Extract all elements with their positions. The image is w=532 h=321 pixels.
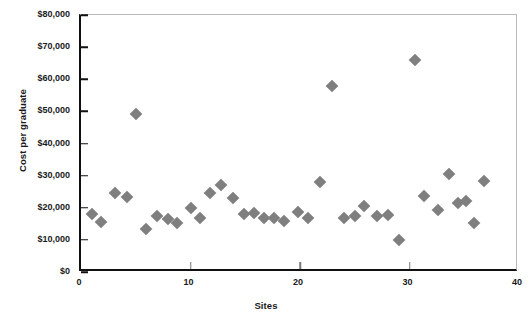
y-axis-tick-mark [81,111,88,113]
data-point-marker [184,201,197,214]
scatter-chart: Cost per graduate $0$10,000$20,000$30,00… [0,0,532,321]
y-axis-tick-label: $10,000 [8,234,70,244]
y-axis-tick-label: $20,000 [8,202,70,212]
x-axis-tick-mark [190,262,192,269]
data-point-marker [313,176,326,189]
y-axis-tick-mark [81,175,88,177]
y-axis-tick-labels: $0$10,000$20,000$30,000$40,000$50,000$60… [8,0,70,321]
plot-area [79,14,517,271]
data-point-marker [381,208,394,221]
data-point-marker [478,175,491,188]
data-point-marker [325,80,338,93]
data-point-marker [417,190,430,203]
data-point-marker [301,211,314,224]
x-axis-tick-label: 20 [293,277,303,287]
y-axis-tick-mark [81,79,88,81]
data-point-marker [94,215,107,228]
y-axis-tick-mark [81,14,88,16]
data-point-marker [139,222,152,235]
data-point-marker [86,207,99,220]
x-axis-title: Sites [0,300,532,311]
x-axis-tick-label: 40 [512,277,522,287]
data-point-marker [468,217,481,230]
data-point-marker [150,209,163,222]
data-point-marker [357,199,370,212]
x-axis-tick-mark [409,262,411,269]
y-axis-tick-mark [81,271,88,273]
y-axis-tick-label: $70,000 [8,41,70,51]
x-axis-tick-mark [299,262,301,269]
data-point-marker [460,195,473,208]
data-point-marker [370,209,383,222]
y-axis-tick-label: $60,000 [8,73,70,83]
data-point-marker [337,212,350,225]
data-point-marker [409,54,422,67]
y-axis-tick-label: $80,000 [8,9,70,19]
data-point-marker [204,186,217,199]
data-point-marker [215,178,228,191]
data-point-marker [194,212,207,225]
y-axis-tick-mark [81,239,88,241]
y-axis-tick-label: $0 [8,266,70,276]
y-axis-tick-mark [81,46,88,48]
data-point-marker [392,233,405,246]
y-axis-tick-mark [81,143,88,145]
y-axis-tick-label: $40,000 [8,138,70,148]
x-axis-tick-label: 10 [183,277,193,287]
y-axis-tick-label: $50,000 [8,105,70,115]
data-point-marker [121,190,134,203]
data-point-marker [348,210,361,223]
y-axis-tick-label: $30,000 [8,170,70,180]
x-axis-tick-label: 0 [76,277,81,287]
data-point-marker [432,204,445,217]
y-axis-tick-mark [81,207,88,209]
data-point-marker [443,168,456,181]
x-axis-tick-label: 30 [402,277,412,287]
data-point-marker [109,186,122,199]
data-point-marker [129,107,142,120]
data-point-marker [227,191,240,204]
